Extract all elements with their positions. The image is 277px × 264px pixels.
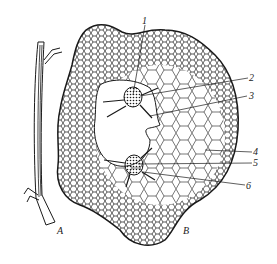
callout-5: 5: [253, 158, 258, 168]
panel-b-cross-section: [50, 15, 252, 255]
callout-3: 3: [249, 91, 254, 101]
panel-a-stem: [24, 42, 62, 225]
callout-4: 4: [253, 147, 258, 157]
callout-6: 6: [246, 181, 251, 191]
stem-diagram: [0, 0, 277, 264]
callout-2: 2: [249, 73, 254, 83]
panel-label-a: A: [57, 226, 63, 236]
panel-label-b: B: [183, 226, 189, 236]
callout-1: 1: [142, 16, 147, 26]
